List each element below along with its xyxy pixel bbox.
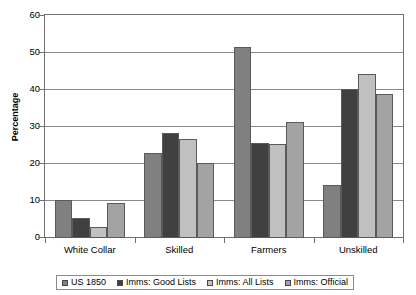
bar: [179, 139, 197, 238]
chart-legend: US 1850Imms: Good ListsImms: All ListsIm…: [56, 275, 354, 290]
bars-layer: [45, 15, 403, 238]
bar: [358, 74, 376, 238]
x-axis-tick-mark: [45, 238, 46, 243]
bar: [55, 200, 73, 238]
y-axis-tick-mark: [38, 89, 44, 90]
x-axis-tick-mark: [224, 238, 225, 243]
y-axis-tick-mark: [38, 52, 44, 53]
bar-chart: Percentage 0102030405060 White CollarSki…: [0, 0, 416, 295]
bar: [197, 163, 215, 238]
legend-label: US 1850: [71, 278, 106, 287]
bar: [162, 133, 180, 238]
bar: [107, 203, 125, 238]
bar: [72, 218, 90, 238]
bar: [251, 143, 269, 238]
legend-label: Imms: All Lists: [216, 278, 274, 287]
y-axis-tick-mark: [38, 15, 44, 16]
bar: [286, 122, 304, 238]
y-axis-tick-label: 30: [12, 121, 40, 131]
y-axis-tick-label: 10: [12, 195, 40, 205]
y-axis-tick-label: 0: [12, 232, 40, 242]
y-axis-tick-mark: [38, 163, 44, 164]
y-axis-tick-mark: [38, 237, 44, 238]
bar: [144, 153, 162, 238]
bar: [341, 89, 359, 238]
x-axis-tick-labels: White CollarSkilledFarmersUnskilled: [44, 244, 404, 260]
x-axis-tick-mark: [403, 238, 404, 243]
y-axis-tick-mark: [38, 200, 44, 201]
legend-swatch-icon: [117, 280, 123, 286]
legend-swatch-icon: [207, 280, 213, 286]
x-axis-tick-label: White Collar: [64, 244, 116, 255]
legend-swatch-icon: [62, 280, 68, 286]
x-axis-tick-label: Unskilled: [339, 244, 378, 255]
y-axis-tick-mark: [38, 126, 44, 127]
legend-item: Imms: All Lists: [207, 278, 274, 287]
y-axis-tick-label: 50: [12, 47, 40, 57]
x-axis-tick-mark: [314, 238, 315, 243]
y-axis-tick-label: 40: [12, 84, 40, 94]
legend-item: US 1850: [62, 278, 106, 287]
legend-item: Imms: Good Lists: [117, 278, 196, 287]
bar: [376, 94, 394, 238]
legend-label: Imms: Official: [294, 278, 348, 287]
x-axis-tick-label: Farmers: [251, 244, 286, 255]
bar: [234, 47, 252, 238]
y-axis-tick-label: 60: [12, 10, 40, 20]
x-axis-tick-label: Skilled: [165, 244, 193, 255]
legend-swatch-icon: [285, 280, 291, 286]
legend-item: Imms: Official: [285, 278, 348, 287]
bar: [323, 185, 341, 238]
legend-label: Imms: Good Lists: [126, 278, 196, 287]
x-axis-tick-mark: [135, 238, 136, 243]
y-axis-tick-labels: 0102030405060: [12, 0, 40, 295]
bar: [90, 227, 108, 238]
bar: [269, 144, 287, 238]
y-axis-tick-label: 20: [12, 158, 40, 168]
